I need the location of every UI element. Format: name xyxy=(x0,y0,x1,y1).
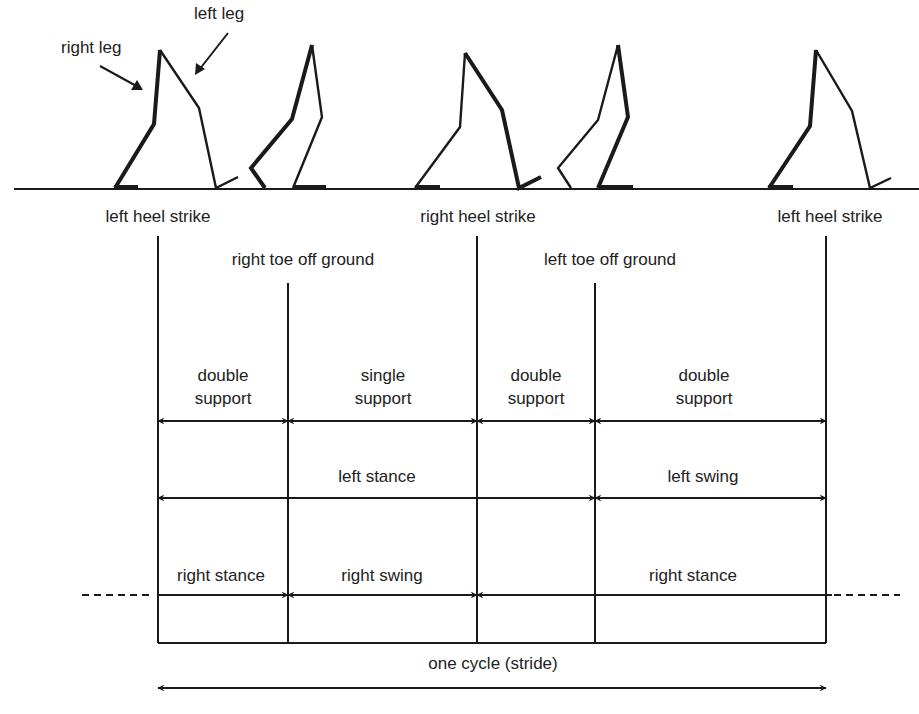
support-phase-line1: double xyxy=(508,364,565,387)
stick-figure-4 xyxy=(558,45,633,188)
left-stance-label: left stance xyxy=(338,467,416,487)
left-leg-thin xyxy=(816,50,891,188)
stick-figure-3 xyxy=(415,53,541,188)
event-label-left-heel-strike-2: left heel strike xyxy=(778,207,883,227)
left-leg-pointer-arrow xyxy=(195,33,228,75)
right-leg-pointer-arrow xyxy=(100,66,143,90)
support-phase-line1: double xyxy=(676,364,733,387)
right-leg-thick xyxy=(115,50,160,188)
cycle-label: one cycle (stride) xyxy=(428,654,557,674)
support-phase-line2: support xyxy=(676,387,733,410)
event-label-right-toe-off: right toe off ground xyxy=(232,250,374,270)
left-swing-label: left swing xyxy=(668,467,739,487)
support-phase-line2: support xyxy=(508,387,565,410)
event-label-left-heel-strike-1: left heel strike xyxy=(106,207,211,227)
support-phase-label-3: double support xyxy=(508,364,565,410)
right-stance-label-2: right stance xyxy=(649,566,737,586)
event-label-left-toe-off: left toe off ground xyxy=(544,250,676,270)
right-swing-label: right swing xyxy=(341,566,422,586)
stick-figure-5 xyxy=(768,50,891,188)
support-phase-label-4: double support xyxy=(676,364,733,410)
support-phase-line2: support xyxy=(195,387,252,410)
left-leg-label: left leg xyxy=(194,4,244,24)
support-phase-label-1: double support xyxy=(195,364,252,410)
right-stance-label-1: right stance xyxy=(177,566,265,586)
support-phase-label-2: single support xyxy=(355,364,412,410)
right-leg-label: right leg xyxy=(61,38,121,58)
stick-figure-2 xyxy=(251,45,326,188)
support-phase-line2: support xyxy=(355,387,412,410)
right-leg-thin xyxy=(415,53,465,188)
event-label-right-heel-strike: right heel strike xyxy=(420,207,535,227)
stick-figure-1 xyxy=(114,50,238,188)
support-phase-line1: double xyxy=(195,364,252,387)
left-leg-thick xyxy=(465,53,541,188)
gait-diagram-canvas xyxy=(0,0,919,714)
right-leg-thick xyxy=(769,50,816,188)
support-phase-line1: single xyxy=(355,364,412,387)
